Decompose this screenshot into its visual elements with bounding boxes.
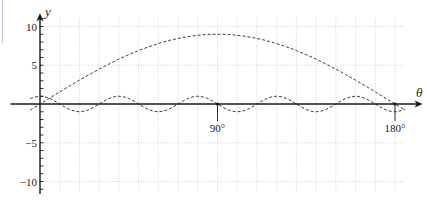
y-axis-label: y bbox=[43, 4, 51, 19]
x-tick-label: 180° bbox=[385, 122, 406, 134]
y-tick-label: 10 bbox=[26, 21, 38, 33]
chart: 105−5−1090°180° y θ bbox=[0, 0, 427, 200]
x-axis-label: θ bbox=[416, 85, 423, 100]
x-tick-label: 90° bbox=[210, 122, 225, 134]
series-1-line bbox=[30, 34, 405, 110]
y-tick-label: −10 bbox=[20, 176, 38, 188]
y-tick-label: −5 bbox=[25, 137, 37, 149]
y-tick-label: 5 bbox=[32, 59, 38, 71]
grid bbox=[40, 18, 405, 192]
